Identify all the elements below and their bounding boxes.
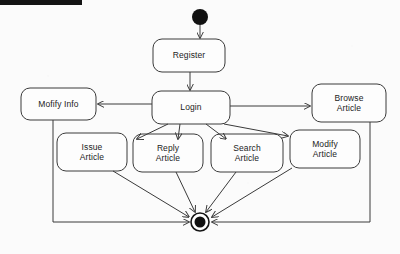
transition-modify-article-to-final: [212, 168, 292, 217]
transition-reply-article-to-final: [176, 172, 195, 212]
state-box-reply-article[interactable]: [133, 134, 203, 172]
state-box-register[interactable]: [153, 39, 225, 72]
state-box-login[interactable]: [152, 91, 230, 124]
diagram-canvas: Register Login Mofify Info Browse Articl…: [0, 0, 400, 254]
state-box-modify-article[interactable]: [290, 130, 360, 168]
initial-node[interactable]: [192, 9, 208, 25]
state-box-issue-article[interactable]: [57, 133, 127, 171]
state-diagram-graphic: [0, 0, 400, 254]
state-box-search-article[interactable]: [211, 134, 283, 172]
transition-issue-article-to-final: [113, 171, 189, 217]
state-box-modify-info[interactable]: [21, 88, 96, 120]
state-box-browse-article[interactable]: [312, 84, 386, 122]
final-node[interactable]: [191, 213, 209, 231]
transition-search-article-to-final: [206, 172, 236, 212]
